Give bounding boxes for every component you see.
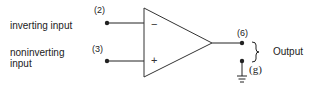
- inverting-terminal-dot: [105, 21, 109, 25]
- output-brace: [252, 42, 259, 62]
- noninverting-input-label-line1: noninverting: [10, 47, 64, 58]
- minus-sign: −: [151, 18, 157, 30]
- pin-6-label: (6): [237, 28, 248, 38]
- noninverting-terminal-dot: [105, 59, 109, 63]
- output-terminal-dot: [240, 41, 244, 45]
- inverting-input-label: inverting input: [10, 20, 72, 31]
- ground-pin-label: (g): [249, 63, 262, 76]
- op-amp-diagram: inverting input noninverting input (2) (…: [0, 0, 314, 90]
- output-label: Output: [273, 46, 303, 57]
- plus-sign: +: [151, 54, 157, 66]
- pin-3-label: (3): [92, 44, 103, 54]
- noninverting-input-label-line2: input: [10, 58, 32, 69]
- pin-2-label: (2): [94, 5, 105, 15]
- ground-icon: [237, 61, 247, 82]
